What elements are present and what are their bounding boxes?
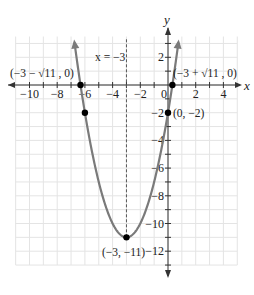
y-tick-label: −10: [145, 217, 164, 231]
data-point: [77, 82, 83, 88]
y-tick-label: 2: [158, 50, 164, 64]
y-tick-label: −2: [151, 106, 164, 120]
y-tick-label: −8: [151, 189, 164, 203]
x-tick-label: −2: [134, 87, 147, 101]
data-point: [123, 234, 129, 240]
x-tick-label: −4: [106, 87, 119, 101]
vertex-label: (−3, −11): [102, 246, 145, 259]
symmetry-label: x = −3: [95, 51, 125, 63]
y-intercept-label: (0, −2): [173, 107, 205, 120]
x-tick-label: 2: [193, 87, 199, 101]
parabola-chart: −10−8−6−4−20242−2−4−6−8−10−12 x y x = −3…: [0, 0, 254, 295]
x-tick-label: 0: [161, 87, 167, 101]
x-tick-label: 4: [220, 87, 226, 101]
x-tick-label: −10: [20, 87, 39, 101]
left-intercept-label: (−3 − √11 , 0): [10, 67, 74, 80]
data-point: [82, 110, 88, 116]
y-tick-label: −12: [145, 244, 164, 258]
data-point: [169, 82, 175, 88]
x-axis-label: x: [243, 78, 250, 93]
y-axis-label: y: [162, 12, 170, 27]
right-intercept-label: (−3 + √11 , 0): [173, 67, 237, 80]
data-point: [165, 110, 171, 116]
x-tick-label: −8: [51, 87, 64, 101]
